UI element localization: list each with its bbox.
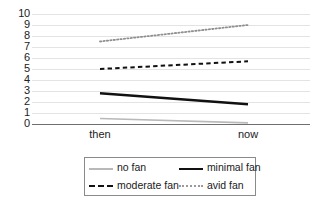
legend-entry[interactable]: minimal fan xyxy=(179,162,261,173)
legend-swatch-icon xyxy=(89,164,113,172)
legend-swatch-icon xyxy=(179,164,203,172)
series-line xyxy=(100,93,248,104)
x-tick-label: now xyxy=(238,128,258,140)
line-chart: 012345678910 thennow no fanminimal fanmo… xyxy=(0,0,322,205)
legend-entry[interactable]: moderate fan xyxy=(89,180,179,191)
plot-area: 012345678910 thennow xyxy=(0,0,322,140)
x-tick-label: then xyxy=(89,128,110,140)
series-line xyxy=(100,61,248,69)
x-axis-tick-labels: thennow xyxy=(0,128,322,144)
legend-label: moderate fan xyxy=(117,180,179,191)
legend-entry[interactable]: avid fan xyxy=(179,180,261,191)
legend-entry[interactable]: no fan xyxy=(89,162,179,173)
legend-label: no fan xyxy=(117,162,146,173)
legend-label: avid fan xyxy=(207,180,244,191)
legend-swatch-icon xyxy=(179,181,203,189)
series-line xyxy=(100,119,248,123)
legend-swatch-icon xyxy=(89,181,113,189)
series-line xyxy=(100,25,248,42)
legend-label: minimal fan xyxy=(207,162,261,173)
series-layer xyxy=(0,0,322,140)
chart-legend: no fanminimal fanmoderate fanavid fan xyxy=(84,157,256,196)
